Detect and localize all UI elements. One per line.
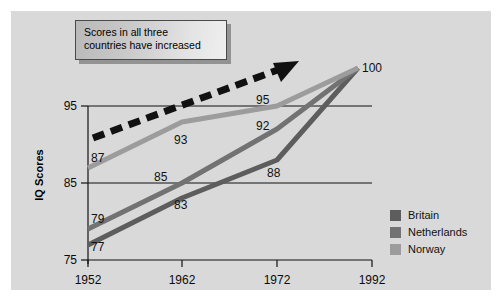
legend-item-netherlands: Netherlands (390, 224, 467, 241)
y-axis-title: IQ Scores (33, 135, 45, 215)
series-line-britain (88, 68, 358, 245)
callout-box: Scores in all three countries have incre… (75, 20, 227, 60)
value-label-norway-1952: 87 (91, 151, 104, 165)
legend-swatch-britain (390, 210, 401, 221)
y-tick-label-95: 95 (51, 99, 77, 113)
x-tick-label-1952: 1952 (65, 273, 111, 287)
y-tick-label-85: 85 (51, 176, 77, 190)
x-tick-label-1972: 1972 (254, 273, 300, 287)
legend-label-netherlands: Netherlands (408, 227, 467, 238)
callout-line-2: countries have increased (84, 39, 218, 52)
callout-line-1: Scores in all three (84, 26, 218, 39)
legend-item-britain: Britain (390, 207, 467, 224)
value-label-netherlands-1962: 85 (154, 170, 167, 184)
legend-item-norway: Norway (390, 241, 467, 258)
value-label-britain-1962: 83 (174, 198, 187, 212)
series-line-norway (88, 68, 358, 168)
value-label-norway-1972: 95 (256, 93, 269, 107)
legend-label-norway: Norway (408, 244, 445, 255)
value-label-britain-1972: 88 (267, 166, 280, 180)
x-tick-label-1962: 1962 (159, 273, 205, 287)
y-tick-label-75: 75 (51, 253, 77, 267)
value-label-norway-1962: 93 (174, 133, 187, 147)
value-label-netherlands-1952: 79 (91, 212, 104, 226)
legend-label-britain: Britain (408, 210, 439, 221)
chart-figure: Scores in all three countries have incre… (11, 11, 491, 290)
chart-legend: Britain Netherlands Norway (390, 207, 467, 258)
legend-swatch-norway (390, 244, 401, 255)
x-tick-label-1992: 1992 (349, 273, 395, 287)
value-label-netherlands-1972: 92 (256, 119, 269, 133)
value-label-britain-1952: 77 (91, 240, 104, 254)
value-label-converge-1992: 100 (362, 61, 382, 75)
legend-swatch-netherlands (390, 227, 401, 238)
